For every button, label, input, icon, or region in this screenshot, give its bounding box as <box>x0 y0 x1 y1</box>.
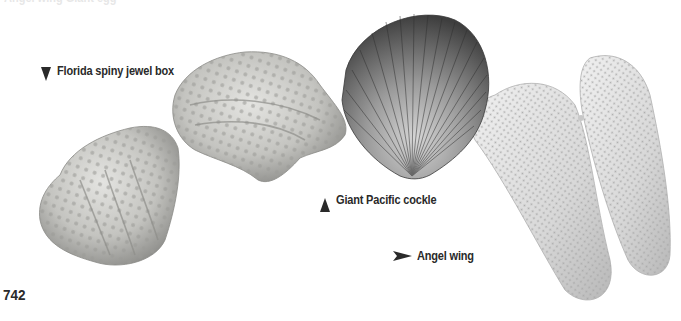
florida-spiny-jewel-box-shells <box>40 52 346 265</box>
pointer-right-icon <box>393 251 412 261</box>
pointer-down-icon <box>41 67 51 81</box>
label-giant-pacific-cockle: Giant Pacific cockle <box>336 193 436 207</box>
pointer-up-icon <box>320 198 330 212</box>
page-number: 742 <box>3 286 26 303</box>
label-angel-wing: Angel wing <box>417 249 474 263</box>
giant-pacific-cockle-shell <box>342 14 489 179</box>
shells-photograph <box>0 0 681 321</box>
book-page: Angel wing Giant egg <box>0 0 681 321</box>
label-florida-spiny-jewel-box: Florida spiny jewel box <box>57 64 174 78</box>
angel-wing-shells <box>472 56 671 300</box>
